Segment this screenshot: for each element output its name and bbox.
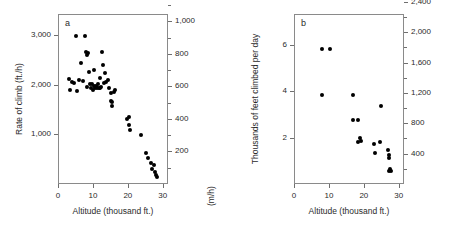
data-point (127, 123, 131, 127)
y-axis-left-tick (54, 134, 58, 135)
x-axis-tick (364, 184, 365, 188)
y-axis-right-minor-tick (168, 103, 171, 104)
y-axis-right-minor-tick (404, 17, 407, 18)
data-point (68, 88, 72, 92)
data-point (356, 118, 360, 122)
x-axis-tick (128, 184, 129, 188)
panel-b: b2464008001,2001,6002,0002,4000102030Alt… (238, 0, 475, 234)
y-axis-left-tick-label: 4 (283, 86, 287, 95)
x-axis-tick (399, 184, 400, 188)
x-axis-tick (58, 184, 59, 188)
y-axis-right-tick (168, 21, 172, 22)
y-axis-right-minor-tick (404, 138, 407, 139)
x-axis-tick-label: 30 (149, 191, 177, 200)
y-axis-left-tick (54, 85, 58, 86)
y-axis-left-tick-label: 6 (283, 40, 287, 49)
x-axis-tick-label: 10 (315, 191, 343, 200)
x-axis-tick-label: 10 (79, 191, 107, 200)
y-axis-right-tick (404, 32, 408, 33)
data-point (98, 76, 102, 80)
y-axis-right-minor-tick (404, 47, 407, 48)
y-axis-right-minor-tick (168, 70, 171, 71)
x-axis-tick-label: 0 (280, 191, 308, 200)
figure-scatter-panels: a1,0002,0003,0002004006008001,0001,20001… (0, 0, 475, 234)
y-axis-left-title: Thousands of feet climbed per day (250, 14, 260, 184)
data-point (389, 169, 393, 173)
y-axis-left-tick-label: 2 (283, 133, 287, 142)
x-axis-tick (93, 184, 94, 188)
data-point (152, 163, 156, 167)
y-axis-right-tick-label: 1,200 (411, 88, 431, 97)
y-axis-right-minor-tick (168, 5, 171, 6)
x-axis-tick (163, 184, 164, 188)
y-axis-right-tick-label: 400 (175, 114, 188, 123)
data-point (359, 139, 363, 143)
y-axis-right-tick-label: 1,000 (175, 16, 195, 25)
panel-letter: a (65, 18, 70, 28)
y-axis-right-tick (168, 54, 172, 55)
y-axis-right-tick (168, 119, 172, 120)
plot-frame (58, 14, 168, 184)
x-axis-tick (294, 184, 295, 188)
y-axis-left-tick-label: 1,000 (31, 129, 51, 138)
y-axis-right-tick-label: 2,000 (411, 27, 431, 36)
data-point (92, 68, 96, 72)
y-axis-right-tick-label: 800 (175, 49, 188, 58)
data-point (127, 115, 131, 119)
y-axis-left-tick (290, 91, 294, 92)
y-axis-right-minor-tick (168, 135, 171, 136)
y-axis-right-tick (404, 63, 408, 64)
y-axis-right-minor-tick (168, 38, 171, 39)
y-axis-right-tick (404, 123, 408, 124)
y-axis-right-minor-tick (404, 169, 407, 170)
y-axis-right-tick (404, 93, 408, 94)
y-axis-right-tick-label: 1,600 (411, 58, 431, 67)
y-axis-right-tick (168, 151, 172, 152)
data-point (79, 61, 83, 65)
panel-a: a1,0002,0003,0002004006008001,0001,20001… (0, 0, 237, 234)
x-axis-tick (329, 184, 330, 188)
y-axis-right-tick-label: 800 (411, 118, 424, 127)
data-point (74, 34, 78, 38)
y-axis-right-tick (404, 2, 408, 3)
data-point (83, 34, 87, 38)
data-point (99, 85, 103, 89)
y-axis-right-minor-tick (168, 168, 171, 169)
y-axis-right-tick (404, 154, 408, 155)
data-point (155, 175, 159, 179)
y-axis-right-minor-tick (404, 78, 407, 79)
y-axis-left-title: Rate of climb (ft./h) (14, 14, 24, 184)
x-axis-tick-label: 0 (44, 191, 72, 200)
panel-letter: b (301, 18, 306, 28)
x-axis-title: Altitude (thousand ft.) (16, 206, 210, 216)
y-axis-right-tick-label: 2,400 (411, 0, 431, 6)
x-axis-tick-label: 20 (114, 191, 142, 200)
data-point (107, 86, 111, 90)
y-axis-left-tick (290, 138, 294, 139)
y-axis-left-tick (290, 45, 294, 46)
y-axis-left-tick (54, 35, 58, 36)
y-axis-left-tick-label: 2,000 (31, 80, 51, 89)
data-point (106, 78, 110, 82)
y-axis-right-tick-label: 600 (175, 81, 188, 90)
y-axis-right-minor-tick (404, 108, 407, 109)
y-axis-right-tick-label: 200 (175, 146, 188, 155)
data-point (75, 89, 79, 93)
y-axis-right-tick-label: 400 (411, 149, 424, 158)
x-axis-title: Altitude (thousand ft.) (252, 206, 446, 216)
y-axis-right-title: (m/h) (206, 186, 216, 206)
x-axis-tick-label: 20 (350, 191, 378, 200)
y-axis-right-tick (168, 86, 172, 87)
x-axis-tick-label: 30 (385, 191, 413, 200)
y-axis-left-tick-label: 3,000 (31, 30, 51, 39)
